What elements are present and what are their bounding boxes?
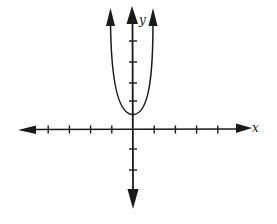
- y-axis-up-arrow-icon: [127, 6, 139, 24]
- parabola-right-arrow-icon: [149, 8, 158, 26]
- x-axis-label: x: [252, 121, 259, 135]
- parabola-left-arrow-icon: [106, 8, 115, 26]
- x-axis-right-arrow-icon: [236, 124, 252, 134]
- y-axis-label: y: [138, 13, 146, 27]
- coordinate-graph: y x: [0, 0, 277, 224]
- x-axis: [18, 124, 252, 135]
- y-axis-down-arrow-icon: [128, 189, 139, 209]
- x-axis-left-arrow-icon: [18, 126, 36, 135]
- y-axis: [127, 6, 139, 209]
